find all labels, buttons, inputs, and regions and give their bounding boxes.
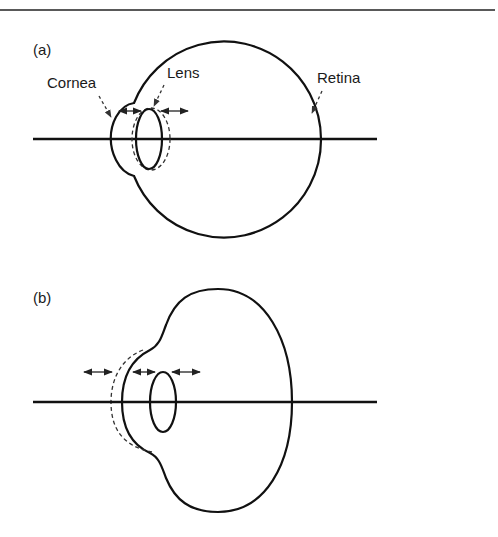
panel-b-label: (b) <box>33 289 51 306</box>
cornea-label: Cornea <box>47 74 97 91</box>
eye-diagram: (a) Cornea Lens Retina (b) <box>0 0 498 537</box>
eye-outline-b <box>122 289 292 512</box>
cornea-pointer <box>99 96 111 117</box>
lens-pointer <box>154 85 164 106</box>
panel-b: (b) <box>33 289 377 512</box>
panel-a-label: (a) <box>33 41 51 58</box>
retina-label: Retina <box>317 69 361 86</box>
lens-label: Lens <box>167 64 200 81</box>
panel-a: (a) Cornea Lens Retina <box>33 41 377 238</box>
